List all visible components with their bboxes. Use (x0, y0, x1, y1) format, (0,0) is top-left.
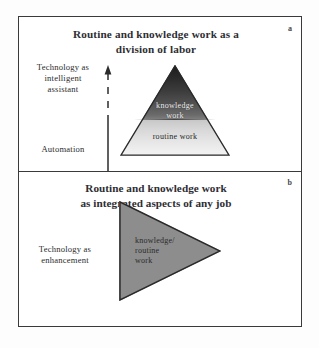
wedge-label-knowledge-routine-work: knowledge/ routine work (135, 236, 175, 266)
axis-caption-line2: intelligent (24, 73, 102, 84)
pyramid-label-knowledge-work: knowledge work (120, 101, 230, 120)
knowledge-routine-pyramid: knowledge work routine work (120, 65, 230, 156)
caption-technology-as-enhancement: Technology as enhancement (22, 244, 108, 266)
figure-container: a Routine and knowledge work as a divisi… (0, 0, 319, 348)
vertical-axis-arrow-icon (102, 65, 114, 171)
panel-a-title-line2: division of labor (34, 42, 278, 57)
pyramid-label-routine-text: routine work (120, 132, 230, 142)
wedge-label-line2: routine (135, 246, 175, 256)
wedge-label-line1: knowledge/ (135, 236, 175, 246)
caption-enhance-line2: enhancement (22, 255, 108, 266)
panel-a-title: Routine and knowledge work as a division… (18, 27, 302, 56)
axis-caption-automation-text: Automation (24, 144, 102, 155)
axis-caption-line1: Technology as (24, 62, 102, 73)
integrated-work-wedge: knowledge/ routine work (119, 201, 221, 301)
axis-caption-automation: Automation (24, 144, 102, 155)
panel-b-title-line1: Routine and knowledge work (30, 181, 282, 196)
panel-b: b Routine and knowledge work as integrat… (18, 172, 302, 327)
pyramid-label-knowledge-line1: knowledge (120, 101, 230, 111)
panel-a: a Routine and knowledge work as a divisi… (18, 16, 302, 172)
pyramid-label-knowledge-line2: work (120, 111, 230, 121)
axis-caption-line3: assistant (24, 84, 102, 95)
panel-a-title-line1: Routine and knowledge work as a (34, 27, 278, 42)
pyramid-label-routine-work: routine work (120, 132, 230, 142)
wedge-label-line3: work (135, 256, 175, 266)
caption-enhance-line1: Technology as (22, 244, 108, 255)
axis-caption-intelligent-assistant: Technology as intelligent assistant (24, 62, 102, 95)
